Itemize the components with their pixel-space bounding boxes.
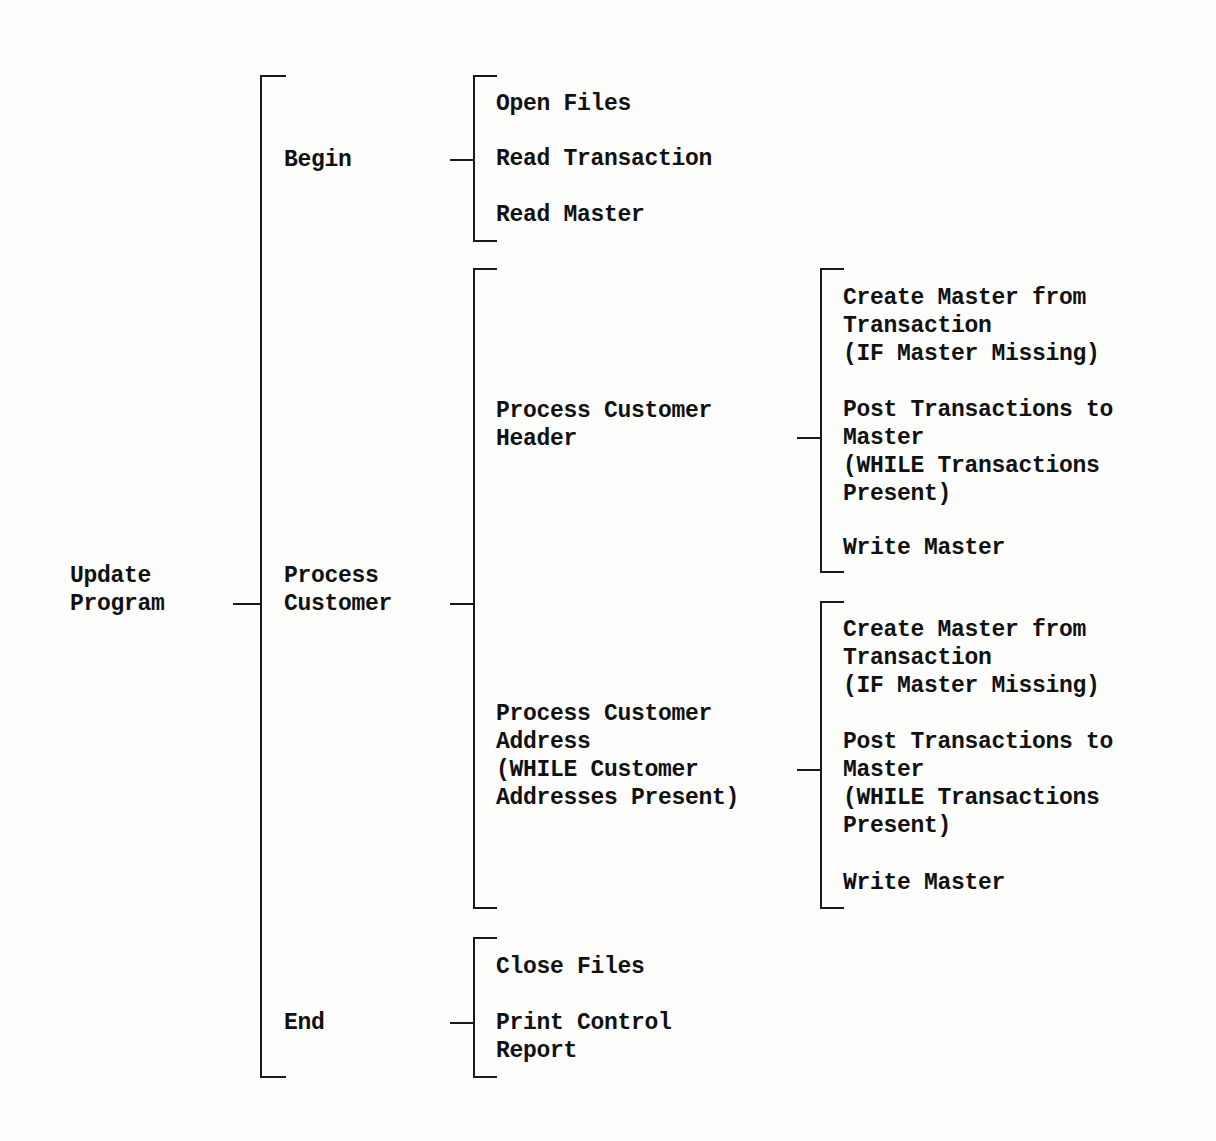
node-address-post-transactions: Post Transactions to Master (WHILE Trans… — [843, 728, 1113, 840]
connector-address — [797, 769, 821, 771]
node-address-write-master: Write Master — [843, 869, 1005, 897]
node-address-create-master: Create Master from Transaction (IF Maste… — [843, 616, 1100, 700]
node-process-customer-address: Process Customer Address (WHILE Customer… — [496, 700, 739, 812]
node-header-post-transactions: Post Transactions to Master (WHILE Trans… — [843, 396, 1113, 508]
node-close-files: Close Files — [496, 953, 645, 981]
node-header-create-master: Create Master from Transaction (IF Maste… — [843, 284, 1100, 368]
node-begin: Begin — [284, 146, 352, 174]
connector-header — [797, 437, 821, 439]
node-process-customer-header: Process Customer Header — [496, 397, 712, 453]
node-end: End — [284, 1009, 325, 1037]
node-read-master: Read Master — [496, 201, 645, 229]
connector-root — [233, 603, 261, 605]
connector-begin — [450, 159, 474, 161]
connector-end — [450, 1022, 474, 1024]
node-print-control-report: Print Control Report — [496, 1009, 672, 1065]
node-process-customer: Process Customer — [284, 562, 392, 618]
connector-process-customer — [450, 603, 474, 605]
node-update-program: Update Program — [70, 562, 165, 618]
node-open-files: Open Files — [496, 90, 631, 118]
node-read-transaction: Read Transaction — [496, 145, 712, 173]
node-header-write-master: Write Master — [843, 534, 1005, 562]
